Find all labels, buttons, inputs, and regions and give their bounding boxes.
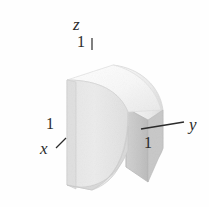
x-axis-tick — [56, 138, 66, 148]
unit-mark-y: 1 — [144, 135, 152, 151]
left-slab-face — [67, 80, 76, 189]
figure-canvas: z x y 1 1 1 — [0, 0, 209, 207]
axis-label-x: x — [40, 140, 48, 157]
axis-label-y: y — [189, 116, 197, 133]
unit-mark-x: 1 — [46, 116, 54, 132]
solid-illustration — [0, 0, 209, 207]
unit-mark-z: 1 — [77, 34, 85, 50]
axis-label-z: z — [73, 16, 80, 33]
